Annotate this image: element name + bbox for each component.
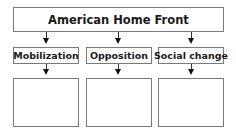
detail-box-social-change [158, 78, 224, 127]
arrow-down-icon [43, 38, 49, 44]
detail-box-opposition [86, 78, 152, 127]
arrow-down-icon [115, 38, 121, 44]
category-label: Social change [154, 50, 228, 61]
category-node-mobilization: Mobilization [13, 47, 79, 64]
category-label: Opposition [90, 50, 148, 61]
arrow-down-icon [188, 38, 194, 44]
category-node-opposition: Opposition [86, 47, 152, 64]
arrow-down-icon [43, 69, 49, 75]
root-label: American Home Front [48, 13, 189, 27]
detail-box-mobilization [13, 78, 79, 127]
arrow-down-icon [188, 69, 194, 75]
arrow-down-icon [115, 69, 121, 75]
category-node-social-change: Social change [158, 47, 224, 64]
category-label: Mobilization [13, 50, 79, 61]
root-node: American Home Front [13, 7, 224, 32]
